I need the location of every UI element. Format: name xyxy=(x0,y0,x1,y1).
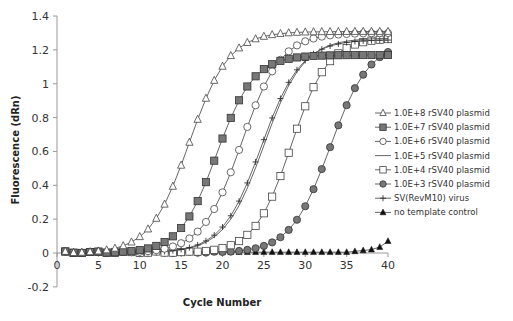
y-tick-label: 1.4 xyxy=(32,10,50,23)
y-tick-label: 1 xyxy=(42,78,49,91)
x-tick-label: 10 xyxy=(133,259,147,272)
legend-item: 1.0E+7 rSV40 plasmid xyxy=(375,122,490,132)
legend-label: 1.0E+5 rSV40 plasmid xyxy=(394,151,490,161)
y-tick-label: 0.8 xyxy=(32,112,50,125)
legend-label: 1.0E+6 rSV40 plasmid xyxy=(394,136,490,146)
legend-item: 1.0E+6 rSV40 plasmid xyxy=(375,136,490,146)
legend-item: 1.0E+8 rSV40 plasmid xyxy=(375,108,490,118)
legend-item: SV(RevM10) virus xyxy=(375,193,470,203)
series-6 xyxy=(62,48,392,256)
legend-item: 1.0E+4 rSV40 plasmid xyxy=(375,165,490,175)
y-axis: -0.200.20.40.60.811.21.4 xyxy=(28,10,57,294)
y-tick-label: -0.2 xyxy=(28,281,49,294)
x-tick-label: 40 xyxy=(381,259,395,272)
legend-label: 1.0E+8 rSV40 plasmid xyxy=(394,108,490,118)
series-5 xyxy=(62,36,392,257)
x-tick-label: 15 xyxy=(174,259,188,272)
y-tick-label: 0.2 xyxy=(32,213,50,226)
y-tick-label: 0.6 xyxy=(32,145,50,158)
legend-item: no template control xyxy=(375,207,478,217)
series-7 xyxy=(62,37,391,256)
legend-item: 1.0E+3 rSV40 plasmid xyxy=(375,179,490,189)
x-tick-label: 25 xyxy=(257,259,271,272)
x-tick-label: 30 xyxy=(298,259,312,272)
series-2 xyxy=(62,51,392,256)
series-3 xyxy=(62,29,392,256)
y-tick-label: 0 xyxy=(42,247,49,260)
legend-label: SV(RevM10) virus xyxy=(394,193,470,203)
y-tick-label: 0.4 xyxy=(32,179,50,192)
x-tick-label: 20 xyxy=(216,259,230,272)
legend-label: no template control xyxy=(394,207,478,217)
legend-label: 1.0E+4 rSV40 plasmid xyxy=(394,165,490,175)
legend-label: 1.0E+7 rSV40 plasmid xyxy=(394,122,490,132)
x-tick-label: 5 xyxy=(95,259,102,272)
legend-label: 1.0E+3 rSV40 plasmid xyxy=(394,179,490,189)
qpcr-amplification-chart: -0.200.20.40.60.811.21.4 051015202530354… xyxy=(0,0,513,321)
legend: 1.0E+8 rSV40 plasmid1.0E+7 rSV40 plasmid… xyxy=(375,108,490,217)
y-axis-label: Fluorescence (dRn) xyxy=(10,95,21,204)
x-tick-label: 0 xyxy=(54,259,61,272)
legend-item: 1.0E+5 rSV40 plasmid xyxy=(375,151,490,161)
x-tick-label: 35 xyxy=(340,259,354,272)
y-tick-label: 1.2 xyxy=(32,44,50,57)
x-axis-label: Cycle Number xyxy=(183,297,261,308)
plot-area xyxy=(62,27,392,256)
